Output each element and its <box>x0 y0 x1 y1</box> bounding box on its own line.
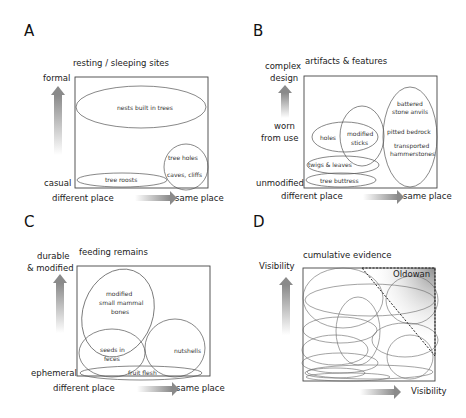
panel-a-x-arrow-icon <box>135 191 177 205</box>
panel-d-y-arrow-icon <box>279 277 293 335</box>
label-oldowan: Oldowan <box>393 269 430 280</box>
label-fruit-flesh: fruit flesh <box>128 369 157 377</box>
label-tree-holes: tree holes <box>168 154 198 162</box>
diagram-canvas <box>0 0 466 418</box>
label-holes: holes <box>320 134 336 142</box>
label-bones: bones <box>111 308 129 316</box>
label-feces: feces <box>104 355 120 363</box>
ellipse-tree-holes-caves <box>164 144 208 190</box>
label-tree-roosts: tree roosts <box>105 176 137 184</box>
label-nutshells: nutshells <box>174 347 201 355</box>
label-hammerstones: hammerstones <box>390 150 435 158</box>
label-modified-bones-1: modified <box>106 290 132 298</box>
panel-a <box>51 77 208 205</box>
label-stone-anvils: stone anvils <box>392 108 428 116</box>
label-nests-built-in-trees: nests built in trees <box>117 104 173 112</box>
label-battered: battered <box>397 100 423 108</box>
label-transported: transported <box>394 142 429 150</box>
panel-b-x-arrow-icon <box>363 190 404 204</box>
panel-c-x-arrow-icon <box>137 382 179 396</box>
label-twigs-leaves: twigs & leaves <box>308 161 352 169</box>
label-tree-buttress: tree buttress <box>320 177 359 185</box>
panel-d-x-arrow-icon <box>360 385 401 399</box>
label-small-mammal: small mammal <box>99 299 143 307</box>
label-pitted-bedrock: pitted bedrock <box>387 128 431 136</box>
panel-b-y-arrow-icon <box>278 85 292 118</box>
panel-a-y-arrow-icon <box>51 86 65 155</box>
panel-c-y-arrow-icon <box>53 274 67 333</box>
label-modified: modified <box>347 130 373 138</box>
label-seeds-in: seeds in <box>100 346 125 354</box>
label-sticks: sticks <box>351 139 368 147</box>
panel-d <box>279 268 438 399</box>
label-caves-cliffs: caves, cliffs <box>167 171 202 179</box>
